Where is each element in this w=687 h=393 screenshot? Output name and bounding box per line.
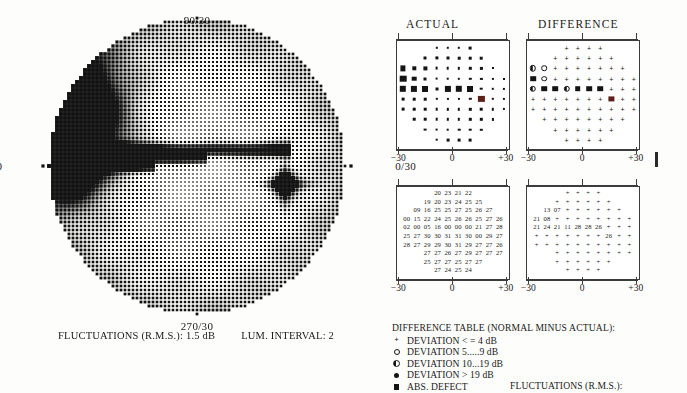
difference-panel-title: DIFFERENCE — [538, 18, 619, 30]
deviation-circle-symbol — [541, 66, 547, 72]
deviation-plus-symbol: + — [565, 126, 569, 133]
table-cell: 27 — [463, 258, 473, 267]
deviation-plus-symbol: + — [553, 96, 557, 103]
table-cell: 27 — [453, 249, 463, 258]
table-cell: + — [593, 241, 603, 250]
difference-numeric-table: ++++++++++1307++++++2108++++++++21242111… — [526, 186, 640, 280]
legend-item: DEVIATION 10...19 dB — [392, 358, 682, 370]
sensitivity-symbol — [435, 77, 438, 80]
table-cell: + — [573, 198, 583, 207]
sensitivity-symbol — [458, 138, 461, 141]
table-cell: + — [532, 232, 542, 241]
table-cell: 07 — [552, 206, 562, 215]
sensitivity-symbol — [503, 108, 505, 110]
deviation-plus-symbol: + — [598, 96, 602, 103]
table-cell: + — [552, 258, 562, 267]
axis-tick — [452, 33, 453, 40]
deviation-plus-symbol: + — [553, 75, 557, 82]
absolute-defect-symbol — [530, 76, 536, 82]
absolute-defect-symbol — [553, 86, 559, 92]
table-cell: + — [614, 223, 624, 232]
deviation-plus-symbol: + — [621, 85, 625, 92]
sensitivity-symbol — [447, 98, 449, 100]
deviation-plus-symbol: + — [587, 45, 591, 52]
table-cell: 24 — [432, 215, 442, 224]
absolute-defect-symbol — [597, 86, 603, 92]
analysis-panel: ACTUAL DIFFERENCE ++++++++++++++++++++++… — [392, 18, 668, 318]
sensitivity-symbol — [458, 128, 461, 131]
deviation-plus-symbol: + — [587, 126, 591, 133]
sensitivity-symbol — [447, 67, 450, 70]
table-cell: 25 — [453, 266, 463, 275]
table-cell: 27 — [412, 232, 422, 241]
axis-tick — [636, 179, 637, 186]
deviation-plus-symbol: + — [598, 126, 602, 133]
legend-half-icon — [392, 360, 401, 367]
axis-tick — [452, 179, 453, 186]
sensitivity-symbol — [435, 98, 437, 100]
table-cell: 27 — [453, 206, 463, 215]
sensitivity-symbol — [424, 118, 427, 121]
table-row: 192023242525 — [397, 198, 509, 207]
deviation-plus-symbol: + — [576, 106, 580, 113]
table-row: 27242524 — [397, 266, 509, 275]
lum-interval-value: LUM. INTERVAL: 2 — [241, 330, 334, 341]
table-cell: 26 — [474, 206, 484, 215]
deviation-plus-symbol: + — [587, 116, 591, 123]
table-cell: 15 — [412, 215, 422, 224]
table-cell: + — [532, 241, 542, 250]
axis-tick — [528, 33, 529, 40]
table-cell: 19 — [422, 198, 432, 207]
table-cell: 25 — [474, 198, 484, 207]
table-cell: + — [573, 258, 583, 267]
table-cell: 26 — [453, 215, 463, 224]
table-cell: + — [583, 215, 593, 224]
sensitivity-symbol — [412, 67, 415, 70]
deviation-plus-symbol: + — [621, 65, 625, 72]
table-cell: 29 — [463, 241, 473, 250]
deviation-plus-symbol: + — [576, 75, 580, 82]
sensitivity-symbol — [480, 128, 482, 130]
sensitivity-symbol — [400, 86, 406, 92]
table-cell: + — [542, 241, 552, 250]
sensitivity-symbol — [447, 108, 449, 110]
sensitivity-symbol — [458, 77, 460, 79]
deviation-plus-symbol: + — [542, 116, 546, 123]
sensitivity-symbol — [491, 98, 493, 100]
table-cell: 27 — [474, 241, 484, 250]
sensitivity-symbol — [413, 108, 416, 111]
table-cell: + — [562, 266, 572, 275]
difference-symbol-grid: ++++++++++++++++++++++++++++++++++++++++… — [527, 41, 639, 149]
deviation-plus-symbol: + — [587, 65, 591, 72]
deviation-plus-symbol: + — [565, 136, 569, 143]
deviation-plus-symbol: + — [553, 65, 557, 72]
sensitivity-symbol — [435, 118, 438, 121]
table-cell: 24 — [443, 266, 453, 275]
sensitivity-symbol — [492, 67, 494, 69]
axis-tick-label: 0 — [580, 283, 585, 293]
table-cell: 28 — [583, 223, 593, 232]
deviation-plus-symbol: + — [565, 75, 569, 82]
axis-tick — [636, 33, 637, 40]
deviation-plus-symbol: + — [576, 136, 580, 143]
legend-fluctuations-label: FLUCTUATIONS (R.M.S.): — [510, 380, 623, 392]
table-cell: 20 — [432, 189, 442, 198]
table-cell: + — [604, 206, 614, 215]
table-cell: 16 — [422, 206, 432, 215]
deviation-plus-symbol: + — [621, 75, 625, 82]
deviation-half-symbol — [530, 65, 536, 71]
table-cell: 00 — [463, 223, 473, 232]
sensitivity-symbol — [435, 67, 438, 70]
deviation-plus-symbol: + — [632, 75, 636, 82]
axis-tick-label: +30 — [498, 283, 513, 293]
table-cell: 22 — [422, 215, 432, 224]
table-cell: + — [593, 189, 603, 198]
legend-item-label: DEVIATION < = 4 dB — [407, 335, 497, 347]
sensitivity-symbol — [492, 118, 494, 120]
table-cell: 27 — [474, 258, 484, 267]
table-cell: 31 — [453, 241, 463, 250]
axis-tick-label: 0 — [450, 153, 455, 163]
sensitivity-symbol — [424, 128, 427, 131]
sensitivity-symbol — [446, 138, 449, 141]
field-plot-footer: FLUCTUATIONS (R.M.S.): 1.5 dB LUM. INTER… — [58, 330, 378, 341]
